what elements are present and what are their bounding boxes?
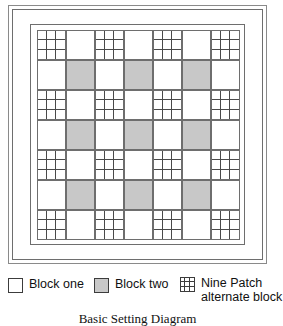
quilt-cell-plain-r2-c3	[124, 90, 153, 120]
nine-patch-subgrid	[212, 91, 239, 119]
legend-item-nine-patch: Nine Patch alternate block	[180, 276, 282, 304]
nine-patch-subgrid	[38, 91, 65, 119]
quilt-cell-ninepatch-r2-c2	[95, 90, 124, 120]
legend-item-block-one-label: Block one	[29, 277, 84, 291]
quilt-cell-plain-r3-c2	[95, 120, 124, 150]
quilt-cell-shaded-r1-c3	[124, 60, 153, 90]
nine-patch-subgrid	[154, 211, 181, 239]
quilt-cell-shaded-r1-c5	[182, 60, 211, 90]
nine-patch-subgrid	[38, 31, 65, 59]
quilt-setting-diagram	[8, 5, 267, 264]
quilt-cell-ninepatch-r2-c0	[37, 90, 66, 120]
nine-patch-subgrid	[154, 91, 181, 119]
diagram-caption: Basic Setting Diagram	[0, 311, 275, 326]
legend: Block one Block two Nine Patch alternate…	[8, 276, 270, 306]
quilt-cell-plain-r6-c3	[124, 210, 153, 240]
quilt-cell-plain-r1-c2	[95, 60, 124, 90]
quilt-cell-plain-r1-c4	[153, 60, 182, 90]
nine-patch-subgrid	[212, 31, 239, 59]
quilt-cell-ninepatch-r4-c4	[153, 150, 182, 180]
quilt-cell-plain-r0-c3	[124, 30, 153, 60]
quilt-cell-ninepatch-r6-c0	[37, 210, 66, 240]
nine-patch-subgrid	[154, 31, 181, 59]
quilt-cell-plain-r1-c0	[37, 60, 66, 90]
nine-patch-subgrid	[96, 31, 123, 59]
quilt-cell-plain-r4-c5	[182, 150, 211, 180]
quilt-cell-plain-r5-c0	[37, 180, 66, 210]
legend-item-block-two-label: Block two	[115, 277, 169, 291]
legend-item-nine-patch-label: Nine Patch alternate block	[201, 276, 282, 304]
quilt-cell-plain-r0-c5	[182, 30, 211, 60]
quilt-cell-plain-r0-c1	[66, 30, 95, 60]
nine-patch-subgrid	[212, 211, 239, 239]
quilt-cell-plain-r3-c4	[153, 120, 182, 150]
nine-patch-subgrid	[96, 91, 123, 119]
quilt-cell-ninepatch-r0-c0	[37, 30, 66, 60]
quilt-cell-plain-r4-c3	[124, 150, 153, 180]
nine-patch-subgrid	[38, 151, 65, 179]
quilt-cell-shaded-r5-c3	[124, 180, 153, 210]
quilt-cell-shaded-r5-c5	[182, 180, 211, 210]
block-two-swatch-icon	[94, 278, 109, 293]
quilt-cell-ninepatch-r2-c4	[153, 90, 182, 120]
nine-patch-subgrid	[212, 151, 239, 179]
quilt-cell-ninepatch-r2-c6	[211, 90, 240, 120]
block-one-swatch-icon	[8, 278, 23, 293]
quilt-cell-ninepatch-r0-c4	[153, 30, 182, 60]
quilt-cell-ninepatch-r6-c4	[153, 210, 182, 240]
legend-item-block-two: Block two	[94, 277, 169, 293]
nine-patch-subgrid	[154, 151, 181, 179]
quilt-cell-shaded-r5-c1	[66, 180, 95, 210]
nine-patch-subgrid	[38, 211, 65, 239]
quilt-cell-plain-r3-c0	[37, 120, 66, 150]
quilt-cell-ninepatch-r4-c0	[37, 150, 66, 180]
nine-patch-swatch-icon	[180, 277, 195, 292]
nine-patch-subgrid	[96, 151, 123, 179]
quilt-cell-plain-r4-c1	[66, 150, 95, 180]
quilt-cell-plain-r5-c6	[211, 180, 240, 210]
quilt-cell-plain-r5-c4	[153, 180, 182, 210]
quilt-cell-ninepatch-r0-c2	[95, 30, 124, 60]
quilt-cell-plain-r6-c5	[182, 210, 211, 240]
quilt-block-grid	[37, 30, 240, 240]
quilt-cell-ninepatch-r4-c6	[211, 150, 240, 180]
quilt-cell-shaded-r3-c1	[66, 120, 95, 150]
legend-item-block-one: Block one	[8, 277, 84, 293]
quilt-cell-shaded-r1-c1	[66, 60, 95, 90]
quilt-cell-plain-r6-c1	[66, 210, 95, 240]
quilt-cell-shaded-r3-c5	[182, 120, 211, 150]
quilt-cell-plain-r3-c6	[211, 120, 240, 150]
nine-patch-subgrid	[96, 211, 123, 239]
quilt-cell-plain-r5-c2	[95, 180, 124, 210]
quilt-cell-shaded-r3-c3	[124, 120, 153, 150]
quilt-cell-ninepatch-r6-c6	[211, 210, 240, 240]
quilt-cell-ninepatch-r4-c2	[95, 150, 124, 180]
quilt-cell-ninepatch-r0-c6	[211, 30, 240, 60]
quilt-cell-plain-r2-c1	[66, 90, 95, 120]
quilt-cell-plain-r2-c5	[182, 90, 211, 120]
quilt-cell-ninepatch-r6-c2	[95, 210, 124, 240]
quilt-cell-plain-r1-c6	[211, 60, 240, 90]
